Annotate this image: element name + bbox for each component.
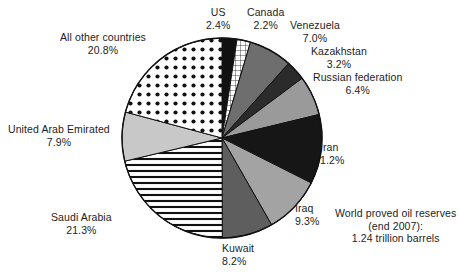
slice-label-percent: 20.8% (60, 44, 146, 57)
slice-label-iran: Iran 1.2% (320, 141, 344, 166)
slice-label-percent: 6.4% (313, 84, 402, 97)
slice-label-percent: 8.2% (222, 255, 254, 268)
slice-label-kuwait: Kuwait 8.2% (222, 242, 254, 267)
chart-caption: World proved oil reserves (end 2007): 1.… (335, 207, 456, 245)
slice-label-percent: 1.2% (320, 154, 344, 167)
slice-label-saudi-arabia: Saudi Arabia 21.3% (51, 211, 112, 236)
slice-label-name: Saudi Arabia (51, 211, 112, 224)
slice-label-percent: 7.0% (290, 32, 340, 45)
slice-label-canada: Canada 2.2% (247, 6, 284, 31)
caption-line-3: 1.24 trillion barrels (335, 232, 456, 245)
slice-label-percent: 2.4% (206, 19, 230, 32)
slice-label-kazakhstan: Kazakhstan 3.2% (311, 45, 367, 70)
caption-line-2: (end 2007): (335, 220, 456, 233)
slice-label-percent: 2.2% (247, 19, 284, 32)
slice-label-iraq: Iraq 9.3% (295, 202, 319, 227)
slice-label-name: All other countries (60, 31, 146, 44)
slice-label-name: Kazakhstan (311, 45, 367, 58)
slice-label-name: Canada (247, 6, 284, 19)
slice-label-united-arab-emirated: United Arab Emirated 7.9% (8, 123, 110, 148)
slice-label-percent: 9.3% (295, 215, 319, 228)
slice-label-name: Iraq (295, 202, 319, 215)
slice-label-all-other-countries: All other countries 20.8% (60, 31, 146, 56)
slice-label-name: Iran (320, 141, 344, 154)
slice-label-name: Russian federation (313, 71, 402, 84)
slice-label-percent: 7.9% (8, 136, 110, 149)
slice-label-name: Kuwait (222, 242, 254, 255)
slice-label-russian-federation: Russian federation 6.4% (313, 71, 402, 96)
slice-label-name: US (206, 6, 230, 19)
pie-chart-figure: All other countries 20.8% US 2.4% Canada… (0, 0, 459, 278)
pie-slices-group (122, 38, 322, 238)
slice-label-percent: 3.2% (311, 58, 367, 71)
slice-label-name: Venezuela (290, 19, 340, 32)
slice-label-venezuela: Venezuela 7.0% (290, 19, 340, 44)
slice-label-us: US 2.4% (206, 6, 230, 31)
slice-label-name: United Arab Emirated (8, 123, 110, 136)
slice-label-percent: 21.3% (51, 224, 112, 237)
caption-line-1: World proved oil reserves (335, 207, 456, 220)
